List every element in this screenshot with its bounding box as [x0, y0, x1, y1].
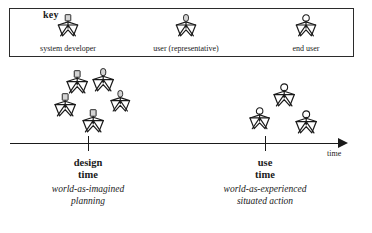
time-axis-line	[10, 143, 340, 144]
star-person-circle-head-icon	[273, 83, 295, 109]
design-time-tick	[88, 136, 89, 151]
time-axis-caption: time	[327, 149, 341, 158]
use-time-subtitle-line1: world-as-experienced	[224, 184, 307, 196]
use-time-title-line1: use	[224, 157, 307, 169]
diagram-canvas: key system developeruser (representative…	[0, 0, 372, 233]
key-entry-label: end user	[293, 44, 320, 53]
star-person-square-head-icon	[66, 70, 88, 96]
star-person-circle-head-icon	[295, 14, 316, 39]
use-time-title-line2: time	[224, 169, 307, 181]
design-time-subtitle-line1: world-as-imagined	[52, 184, 124, 196]
star-person-square-head-icon	[54, 93, 76, 119]
use-time-tick	[265, 136, 266, 151]
star-person-circle-head-icon	[295, 110, 317, 136]
key-entry-label: system developer	[40, 44, 96, 53]
key-entry-label: user (representative)	[153, 44, 219, 53]
star-person-circle-head-icon	[249, 107, 270, 132]
design-time-title-line2: time	[52, 169, 124, 181]
design-time-title-line1: design	[52, 157, 124, 169]
use-time-label-group: use time world-as-experienced situated a…	[224, 157, 307, 207]
star-person-square-head-icon	[57, 14, 78, 39]
time-axis-arrowhead-icon	[338, 138, 348, 148]
design-time-label-group: design time world-as-imagined planning	[52, 157, 124, 207]
star-person-oval-head-icon	[175, 14, 196, 39]
star-person-square-head-icon	[82, 109, 104, 135]
design-time-subtitle-line2: planning	[52, 196, 124, 208]
star-person-oval-head-icon	[110, 90, 131, 114]
use-time-subtitle-line2: situated action	[224, 196, 307, 208]
